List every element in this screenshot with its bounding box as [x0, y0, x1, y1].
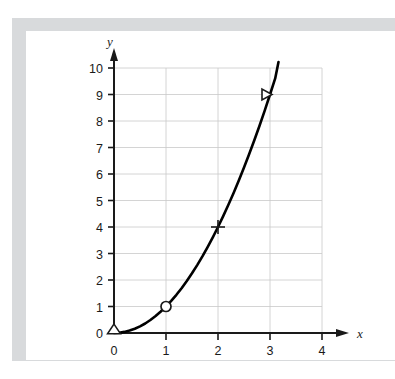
y-tick-label-0: 0	[96, 327, 103, 341]
x-axis-arrow-icon	[336, 329, 349, 337]
x-tick-label-0: 0	[111, 344, 118, 358]
x-tick-label-1: 1	[163, 344, 170, 358]
y-axis-label: y	[105, 34, 113, 49]
y-tick-labels: 0 1 2 3 4 5 6 7 8 9 10	[89, 62, 103, 341]
x-tick-label-3: 3	[267, 344, 274, 358]
y-tick-label-3: 3	[96, 248, 103, 262]
plot-area: 0 1 2 3 4 5 6 7 8 9 10 0 1 2 3 4 y	[0, 0, 395, 379]
x-axis-label: x	[356, 326, 363, 341]
grid-lines	[114, 68, 322, 333]
y-tick-label-5: 5	[96, 195, 103, 209]
x-tick-labels: 0 1 2 3 4	[111, 344, 326, 358]
y-tick-label-9: 9	[96, 89, 103, 103]
plus-marker	[211, 220, 225, 234]
chart-svg: 0 1 2 3 4 5 6 7 8 9 10 0 1 2 3 4 y	[0, 0, 395, 379]
x-axis-ticks	[166, 333, 322, 340]
y-tick-label-7: 7	[96, 142, 103, 156]
axes	[114, 60, 338, 333]
data-curve	[114, 62, 279, 333]
circle-marker	[161, 302, 171, 312]
x-tick-label-4: 4	[319, 344, 326, 358]
y-tick-label-10: 10	[89, 62, 103, 76]
x-tick-label-2: 2	[215, 344, 222, 358]
origin-triangle-marker	[108, 324, 121, 334]
y-tick-label-6: 6	[96, 168, 103, 182]
y-tick-label-1: 1	[96, 301, 103, 315]
chart-page: 0 1 2 3 4 5 6 7 8 9 10 0 1 2 3 4 y	[0, 0, 395, 379]
y-tick-label-2: 2	[96, 274, 103, 288]
y-tick-label-4: 4	[96, 221, 103, 235]
y-tick-label-8: 8	[96, 115, 103, 129]
y-axis-arrow-icon	[110, 48, 118, 61]
